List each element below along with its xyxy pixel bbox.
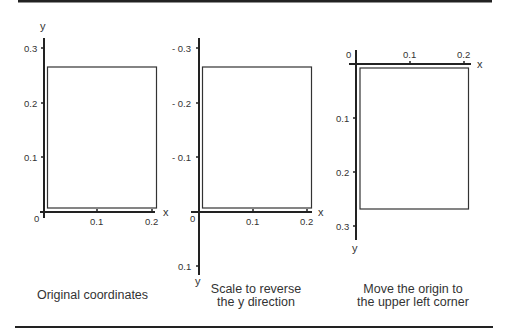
x-tick-label: 0.1 [90, 216, 103, 227]
rectangle [360, 68, 469, 209]
caption-original: Original coordinates [20, 289, 165, 302]
x-tick-label: 0.2 [457, 49, 470, 60]
y-tick-label: - 0.3 [172, 43, 191, 54]
y-tick-label: 0.2 [24, 98, 37, 109]
rectangle [48, 67, 157, 208]
caption-text: Original coordinates [37, 288, 148, 302]
y-tick-label: 0.2 [336, 167, 349, 178]
caption-origin-upper-left: Move the origin to the upper left corner [350, 283, 476, 309]
y-tick-label: 0.1 [178, 261, 191, 272]
origin-label: 0 [34, 213, 39, 224]
origin-label: 0 [190, 213, 195, 224]
origin-label: 0 [346, 49, 351, 60]
caption-line-2: the y direction [200, 296, 312, 309]
panel-reversed-y: y x 0 - 0.3 - 0.2 - 0.1 0.1 0.1 0.2 [172, 38, 324, 287]
x-axis-label: x [477, 58, 483, 70]
top-rule [18, 0, 492, 3]
x-tick-label: 0.2 [300, 216, 313, 227]
y-axis-label: y [352, 242, 358, 254]
caption-line-2: the upper left corner [350, 296, 476, 309]
bottom-rule [15, 326, 493, 328]
caption-reversed-y: Scale to reverse the y direction [200, 283, 312, 309]
panel-original: y x 0 0.3 0.2 0.1 0.1 0.2 [24, 20, 169, 227]
y-tick-label: 0.3 [336, 221, 349, 232]
y-axis-label: y [40, 20, 46, 32]
x-tick-label: 0.1 [403, 49, 416, 60]
y-tick-label: 0.1 [336, 113, 349, 124]
y-tick-label: - 0.1 [172, 152, 191, 163]
x-tick-label: 0.1 [246, 216, 259, 227]
rectangle [203, 67, 312, 208]
panel-origin-upper-left: y x 0 0.1 0.2 0.1 0.2 0.3 [336, 49, 483, 254]
y-tick-label: 0.3 [24, 43, 37, 54]
y-tick-label: 0.1 [24, 152, 37, 163]
x-tick-label: 0.2 [145, 216, 158, 227]
y-tick-label: - 0.2 [172, 98, 191, 109]
x-axis-label: x [163, 206, 169, 218]
x-axis-label: x [318, 206, 324, 218]
